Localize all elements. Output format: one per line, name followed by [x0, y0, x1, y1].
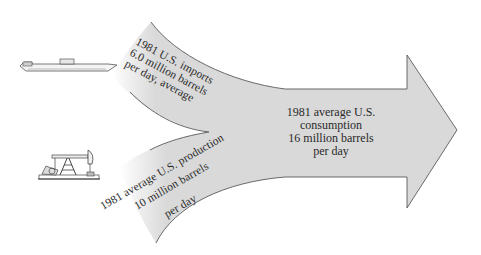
oil-flow-diagram: 1981 U.S. imports 6.0 million barrels pe… — [0, 0, 481, 255]
consumption-line-1: 1981 average U.S. — [287, 105, 376, 119]
consumption-line-2: consumption — [300, 118, 362, 132]
oil-tanker-ship-icon — [20, 59, 117, 71]
oil-pump-jack-icon — [38, 150, 100, 179]
consumption-line-4: per day — [313, 144, 349, 158]
consumption-line-3: 16 million barrels — [288, 131, 374, 145]
